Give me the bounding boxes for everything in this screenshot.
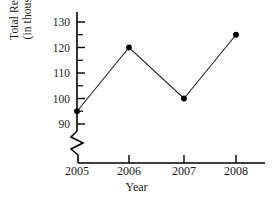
y-tick-label-130: 130	[44, 16, 70, 28]
x-tick-label-2006: 2006	[106, 165, 152, 178]
data-point-2006[interactable]	[126, 45, 132, 51]
data-point-2005[interactable]	[74, 108, 80, 114]
x-tick-label-2007: 2007	[161, 165, 207, 178]
y-tick-label-90: 90	[44, 118, 70, 130]
revenue-data-line	[77, 35, 236, 112]
y-tick-label-100: 100	[44, 93, 70, 105]
revenue-line-chart: 130 120 110 100 90 2005 2006 2007 2008 T…	[0, 0, 273, 203]
y-tick-label-120: 120	[44, 42, 70, 54]
x-axis-ticks	[129, 155, 236, 163]
y-tick-label-110: 110	[44, 67, 70, 79]
y-axis-break-icon	[71, 131, 83, 163]
data-point-2008[interactable]	[233, 32, 239, 38]
x-axis-title: Year	[0, 180, 273, 195]
x-tick-label-2005: 2005	[54, 165, 100, 178]
x-tick-label-2008: 2008	[213, 165, 259, 178]
data-point-2007[interactable]	[181, 96, 187, 102]
